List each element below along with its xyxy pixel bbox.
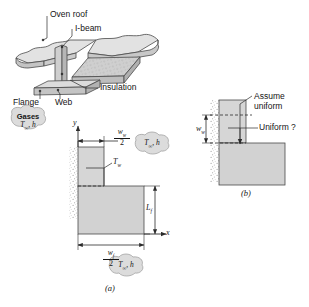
label-wall-temperature-a: Tw (113, 157, 121, 168)
axis-label-y-a: y (73, 118, 77, 127)
label-uniform-question: Uniform ? (259, 123, 296, 132)
oven-wall-stipple-b (210, 100, 219, 182)
tw-leader-a (104, 163, 112, 168)
label-assume-uniform-line1: Assume (254, 92, 285, 101)
dim-web-width-a (78, 136, 118, 147)
web-cross-section-b (219, 100, 246, 143)
web-cross-section-a (78, 147, 104, 187)
ambient-cloud-bottom-label: T∞, h (112, 261, 140, 271)
label-insulation: Insulation (100, 83, 136, 92)
oven-wall-stipple-a (69, 147, 78, 219)
label-assume-uniform-line2: uniform (254, 102, 282, 111)
label-oven-roof: Oven roof (50, 10, 87, 19)
dim-label-web-width-a: ww 2 (114, 128, 130, 147)
flange-cross-section-b (219, 143, 285, 185)
gases-cloud-label: Gases T∞, h (14, 113, 42, 131)
dim-label-flange-length-a: Lf (146, 203, 152, 214)
label-flange: Flange (13, 98, 39, 107)
heat-transfer-figure (0, 0, 309, 307)
caption-a: (a) (105, 283, 115, 293)
i-beam-flange (34, 80, 100, 95)
dim-label-web-width-b: ww (196, 124, 205, 135)
flange-cross-section-a (78, 186, 144, 234)
label-web: Web (55, 98, 72, 107)
ambient-cloud-right-label: T∞, h (138, 139, 166, 149)
caption-b: (b) (241, 188, 251, 198)
axis-label-x-a: x (166, 228, 170, 237)
label-i-beam: I-beam (75, 24, 101, 33)
